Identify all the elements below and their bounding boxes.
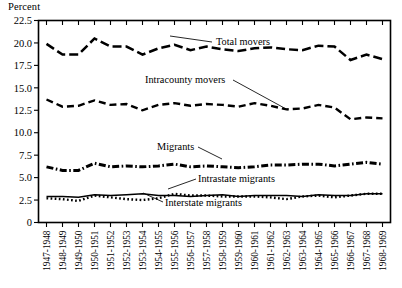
plot-svg: 02.55.07.510.012.515.017.520.022.5 Total… bbox=[0, 0, 402, 288]
series-annotation-label: Intracounty movers bbox=[145, 74, 225, 85]
x-tick-label: 1961-1962 bbox=[266, 230, 276, 271]
x-tick-label: 1951-1952 bbox=[106, 230, 116, 271]
y-axis-ticks: 02.55.07.510.012.515.017.520.022.5 bbox=[14, 15, 39, 228]
x-tick-label: 1963-1964 bbox=[298, 230, 308, 271]
y-tick-label: 12.5 bbox=[14, 105, 32, 116]
y-tick-label: 20.0 bbox=[14, 38, 32, 49]
annotation-leader-line bbox=[170, 36, 212, 42]
x-tick-label: 1955-1956 bbox=[170, 230, 180, 271]
x-tick-label: 1956-1957 bbox=[186, 230, 196, 271]
x-tick-label: 1950-1951 bbox=[90, 230, 100, 271]
y-tick-label: 17.5 bbox=[14, 60, 32, 71]
x-tick-label: 1948-1949 bbox=[58, 230, 68, 271]
migration-percent-line-chart: Percent 02.55.07.510.012.515.017.520.022… bbox=[0, 0, 402, 288]
plot-frame bbox=[39, 21, 391, 223]
x-tick-label: 1957-1958 bbox=[202, 230, 212, 271]
y-tick-label: 0 bbox=[27, 217, 32, 228]
x-tick-label: 1962-1963 bbox=[282, 230, 292, 271]
annotation-leader-line bbox=[198, 147, 222, 159]
series-annotation-label: Migrants bbox=[157, 141, 194, 152]
x-tick-label: 1952-1953 bbox=[122, 230, 132, 271]
x-axis-labels: 1947-19481948-19491949-19501950-19511951… bbox=[42, 230, 388, 271]
series-line bbox=[47, 38, 383, 60]
y-tick-label: 2.5 bbox=[19, 195, 32, 206]
x-tick-label: 1958-1959 bbox=[218, 230, 228, 271]
x-tick-label: 1968-1969 bbox=[378, 230, 388, 271]
x-tick-label: 1947-1948 bbox=[42, 230, 52, 271]
x-tick-label: 1949-1950 bbox=[74, 230, 84, 271]
x-tick-label: 1953-1954 bbox=[138, 230, 148, 271]
series-annotation-label: Intrastate migrants bbox=[198, 173, 275, 184]
series-line bbox=[47, 100, 383, 120]
annotation-leader-line bbox=[168, 179, 196, 189]
y-tick-label: 15.0 bbox=[14, 83, 32, 94]
x-tick-label: 1960-1961 bbox=[250, 230, 260, 271]
series-annotation-label: Total movers bbox=[216, 36, 270, 47]
x-tick-label: 1965-1966 bbox=[330, 230, 340, 271]
x-tick-label: 1966-1967 bbox=[346, 230, 356, 271]
x-tick-label: 1964-1965 bbox=[314, 230, 324, 271]
y-tick-label: 22.5 bbox=[14, 15, 32, 26]
y-tick-label: 5.0 bbox=[19, 172, 32, 183]
series-annotation-label: Interstate migrants bbox=[165, 197, 242, 208]
series-line bbox=[47, 162, 383, 170]
x-tick-label: 1959-1960 bbox=[234, 230, 244, 271]
x-tick-label: 1954-1955 bbox=[154, 230, 164, 271]
y-tick-label: 7.5 bbox=[19, 150, 32, 161]
y-tick-label: 10.0 bbox=[14, 127, 32, 138]
series-annotations: Total moversIntracounty moversMigrantsIn… bbox=[143, 36, 288, 208]
x-tick-label: 1967-1968 bbox=[362, 230, 372, 271]
